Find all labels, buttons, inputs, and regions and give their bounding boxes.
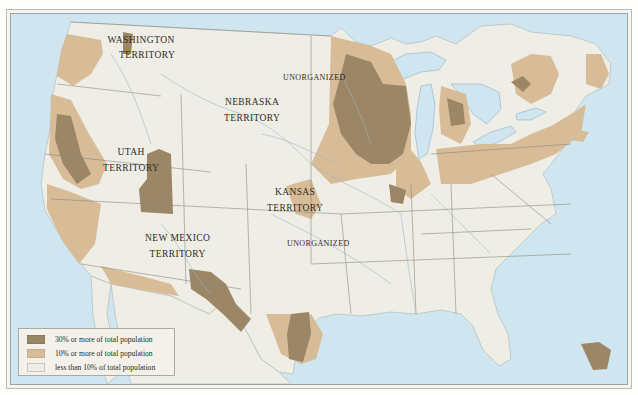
label-nebraska-territory: NEBRASKA TERRITORY [224,98,280,123]
legend-item-high: 30% or more of total population [27,333,153,345]
label-utah-territory: UTAH TERRITORY [103,148,159,173]
label-new-mexico-territory: NEW MEXICO TERRITORY [145,234,210,259]
page: WASHINGTON TERRITORY UNORGANIZED NEBRASK… [0,0,638,395]
label-unorganized-south: UNORGANIZED [287,240,350,248]
label-unorganized-north: UNORGANIZED [283,74,346,82]
legend-swatch-medium [27,349,45,358]
label-washington-territory: WASHINGTON TERRITORY [107,36,175,60]
map-frame: WASHINGTON TERRITORY UNORGANIZED NEBRASK… [10,13,628,385]
legend-swatch-low [27,363,45,372]
map-legend: 30% or more of total population 10% or m… [18,328,175,376]
legend-swatch-high [27,335,45,344]
label-kansas-territory: KANSAS TERRITORY [267,188,323,213]
legend-item-medium: 10% or more of total population [27,347,153,359]
legend-item-low: less than 10% of total population [27,361,155,373]
